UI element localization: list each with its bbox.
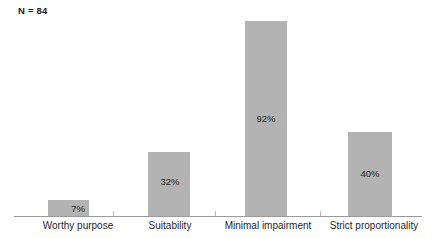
bar-value-label: 32%: [110, 176, 230, 187]
axis-tick: [215, 211, 216, 216]
axis-tick: [320, 211, 321, 216]
bar-chart: N = 84 7%32%92%40% Worthy purposeSuitabi…: [0, 0, 436, 238]
axis-tick: [113, 211, 114, 216]
bar-value-label: 40%: [310, 168, 430, 179]
bar-value-label: 92%: [206, 113, 326, 124]
bar-value-label: 7%: [18, 203, 138, 214]
x-axis-line: [14, 216, 422, 217]
category-label: Strict proportionality: [312, 220, 436, 231]
x-axis-category-labels: Worthy purposeSuitabilityMinimal impairm…: [0, 220, 436, 238]
plot-area: 7%32%92%40%: [0, 0, 436, 217]
